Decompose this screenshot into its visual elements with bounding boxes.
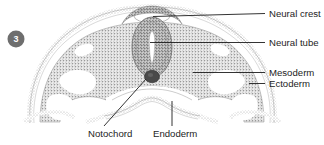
figure-panel: Neural crest Neural tube Mesoderm Ectode… [0,0,324,145]
embryo-body-group [24,6,280,123]
step-badge-number: 3 [13,34,18,44]
label-neural-crest: Neural crest [269,8,321,19]
label-neural-tube: Neural tube [269,37,319,48]
embryo-cross-section-figure: Neural crest Neural tube Mesoderm Ectode… [0,0,324,145]
neural-tube-layer [132,17,172,78]
label-ectoderm: Ectoderm [269,78,310,89]
label-mesoderm: Mesoderm [269,67,314,78]
notochord-layer [145,70,160,82]
label-endoderm: Endoderm [153,128,197,139]
label-notochord: Notochord [88,128,132,139]
step-badge: 3 [8,31,25,48]
